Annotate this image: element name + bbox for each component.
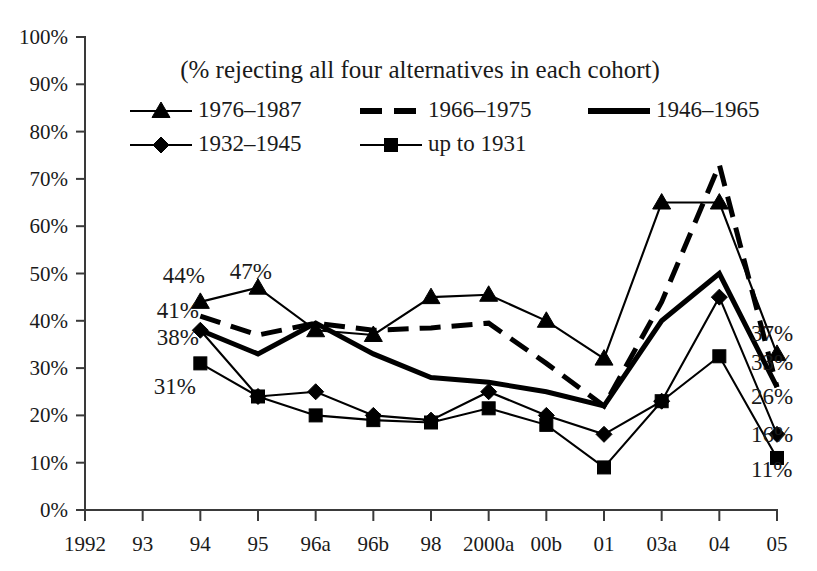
x-tick-label: 04 [709, 532, 731, 556]
point-value-label: 44% [163, 263, 205, 288]
data-point-diamond [711, 289, 727, 305]
line-chart: 0%10%20%30%40%50%60%70%80%90%100% 199293… [0, 0, 817, 571]
x-tick-label: 05 [767, 532, 788, 556]
series-lines [200, 165, 777, 468]
y-tick-label: 50% [30, 262, 69, 286]
x-tick-label: 00b [531, 532, 563, 556]
legend-label: 1932–1945 [198, 131, 302, 156]
x-tick-label: 93 [132, 532, 153, 556]
x-tick-label: 96a [301, 532, 332, 556]
legend-label: up to 1931 [428, 131, 526, 156]
point-value-label: 31% [154, 374, 196, 399]
y-tick-label: 90% [30, 72, 69, 96]
data-point-triangle [710, 194, 728, 209]
data-point-square [194, 357, 207, 370]
data-point-diamond [596, 426, 612, 442]
data-point-triangle [537, 312, 555, 327]
legend-item: 1946–1965 [588, 97, 760, 122]
point-value-label: 37% [751, 321, 793, 346]
y-tick-label: 40% [30, 309, 69, 333]
point-value-label: 41% [157, 298, 199, 323]
x-axis-ticks: 199293949596a96b982000a00b0103a0405 [64, 510, 788, 556]
x-tick-label: 1992 [64, 532, 106, 556]
point-value-label: 16% [751, 422, 793, 447]
legend-label: 1966–1975 [428, 97, 532, 122]
y-tick-label: 70% [30, 167, 69, 191]
y-tick-label: 100% [19, 25, 68, 49]
series-line-0 [200, 203, 777, 359]
data-point-square [655, 395, 668, 408]
x-tick-label: 01 [594, 532, 615, 556]
y-tick-label: 60% [30, 214, 69, 238]
chart-container: 0%10%20%30%40%50%60%70%80%90%100% 199293… [0, 0, 817, 571]
y-tick-label: 80% [30, 120, 69, 144]
point-value-label: 47% [230, 259, 272, 284]
legend-label: 1976–1987 [198, 97, 302, 122]
data-point-square [367, 414, 380, 427]
data-point-square [540, 418, 553, 431]
data-point-square [425, 416, 438, 429]
data-point-square [309, 409, 322, 422]
x-tick-label: 03a [647, 532, 678, 556]
data-point-triangle [595, 350, 613, 365]
chart-legend: 1976–19871966–19751946–19651932–1945up t… [130, 97, 760, 156]
point-value-label: 33% [751, 350, 793, 375]
y-tick-label: 0% [40, 498, 68, 522]
data-point-square [598, 461, 611, 474]
data-point-square [252, 390, 265, 403]
point-value-label: 26% [751, 384, 793, 409]
data-point-diamond [481, 384, 497, 400]
y-axis-ticks: 0%10%20%30%40%50%60%70%80%90%100% [19, 25, 85, 522]
legend-marker-diamond [153, 137, 169, 153]
y-tick-label: 30% [30, 356, 69, 380]
data-point-square [713, 350, 726, 363]
x-tick-label: 98 [421, 532, 442, 556]
series-markers [191, 194, 786, 474]
data-point-square [482, 402, 495, 415]
legend-item: up to 1931 [360, 131, 526, 156]
legend-item: 1966–1975 [360, 97, 532, 122]
point-value-label: 38% [157, 325, 199, 350]
data-point-diamond [308, 384, 324, 400]
data-point-triangle [653, 194, 671, 209]
y-tick-label: 20% [30, 403, 69, 427]
legend-marker-triangle [152, 102, 170, 117]
legend-item: 1976–1987 [130, 97, 302, 122]
legend-marker-square [385, 139, 398, 152]
value-labels-right: 37%33%26%16%11% [751, 321, 793, 482]
legend-label: 1946–1965 [656, 97, 760, 122]
x-tick-label: 96b [358, 532, 390, 556]
chart-title: (% rejecting all four alternatives in ea… [180, 56, 660, 84]
value-labels-left: 44%47%41%38%31% [154, 259, 272, 399]
x-tick-label: 2000a [463, 532, 515, 556]
x-tick-label: 94 [190, 532, 212, 556]
point-value-label: 11% [751, 457, 792, 482]
data-point-triangle [480, 286, 498, 301]
legend-item: 1932–1945 [130, 131, 302, 156]
y-tick-label: 10% [30, 451, 69, 475]
x-tick-label: 95 [248, 532, 269, 556]
